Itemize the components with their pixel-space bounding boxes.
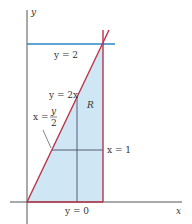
- label-y-equals-0: y = 0: [64, 206, 89, 216]
- label-fraction-denominator: 2: [51, 118, 57, 128]
- label-fraction-numerator: y: [50, 106, 57, 116]
- label-x-equals-lhs: x =: [33, 112, 48, 122]
- label-y-equals-2: y = 2: [53, 50, 78, 60]
- label-y-equals-2x: y = 2x: [48, 90, 78, 100]
- x-axis-label: x: [176, 206, 181, 216]
- label-leader-line: [43, 130, 51, 148]
- region-label-r: R: [86, 100, 94, 110]
- region-diagram: y x y = 2 y = 2x x = y 2 R x = 1 y = 0: [0, 0, 192, 224]
- y-axis-label: y: [30, 7, 37, 17]
- label-x-equals-1: x = 1: [107, 145, 131, 155]
